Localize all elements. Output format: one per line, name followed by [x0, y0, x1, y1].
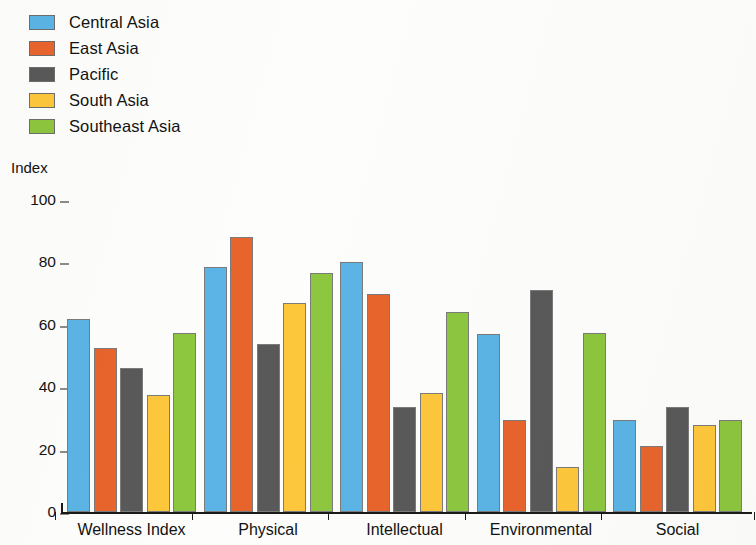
bar	[530, 290, 553, 512]
bar	[367, 294, 390, 512]
bar-group	[340, 0, 469, 512]
x-axis-category-label: Social	[656, 521, 700, 539]
x-axis-line	[61, 512, 752, 514]
legend-swatch-icon	[29, 67, 55, 82]
bar	[613, 420, 636, 512]
y-axis-tick-label: 40	[0, 378, 56, 396]
bar-group	[204, 0, 333, 512]
x-axis-tick-mark	[192, 512, 193, 520]
bar	[204, 267, 227, 512]
bar	[393, 407, 416, 512]
x-axis-category-label: Physical	[238, 521, 298, 539]
x-axis-tick-mark	[328, 512, 329, 520]
bar	[94, 348, 117, 512]
x-axis-category-label: Intellectual	[366, 521, 443, 539]
y-axis-tick-label: 0	[0, 503, 56, 521]
bar	[67, 319, 90, 512]
bar	[477, 334, 500, 512]
x-axis-tick-mark	[601, 512, 602, 520]
bar	[420, 393, 443, 512]
x-axis-category-label: Wellness Index	[77, 521, 185, 539]
bar	[503, 420, 526, 512]
x-axis-tick-mark	[55, 512, 56, 520]
y-axis-tick-label: 100	[0, 191, 56, 209]
bar	[283, 303, 306, 512]
bar	[173, 333, 196, 512]
bar	[666, 407, 689, 512]
x-axis-tick-mark	[754, 512, 755, 520]
y-axis-tick-label: 20	[0, 441, 56, 459]
y-axis-title: Index	[11, 159, 48, 176]
bar	[147, 395, 170, 512]
legend-swatch-icon	[29, 15, 55, 30]
bar	[257, 344, 280, 512]
bar	[556, 467, 579, 512]
bar	[310, 273, 333, 512]
bar-group	[477, 0, 606, 512]
bar	[583, 333, 606, 512]
legend-swatch-icon	[29, 119, 55, 134]
bar-chart: Central AsiaEast AsiaPacificSouth AsiaSo…	[0, 0, 756, 545]
legend-swatch-icon	[29, 93, 55, 108]
bar	[693, 425, 716, 512]
bar	[340, 262, 363, 512]
bar	[640, 446, 663, 512]
y-axis-tick-label: 60	[0, 316, 56, 334]
x-axis-category-label: Environmental	[490, 521, 592, 539]
bar	[446, 312, 469, 512]
x-axis-tick-mark	[465, 512, 466, 520]
bar-group	[613, 0, 742, 512]
legend-swatch-icon	[29, 41, 55, 56]
bar-group	[67, 0, 196, 512]
y-axis-tick-label: 80	[0, 253, 56, 271]
bar	[230, 237, 253, 512]
bar	[719, 420, 742, 512]
bar	[120, 368, 143, 512]
